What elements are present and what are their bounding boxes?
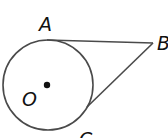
label-c: C xyxy=(79,128,93,138)
center-point-o xyxy=(44,82,50,88)
tangent-diagram: A B C O xyxy=(0,0,168,138)
label-a: A xyxy=(37,13,52,35)
label-b: B xyxy=(157,32,168,54)
label-o: O xyxy=(22,88,37,110)
tangent-segment-cb xyxy=(87,43,153,107)
